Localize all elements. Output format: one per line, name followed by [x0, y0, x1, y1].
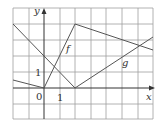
g-label: g	[122, 57, 128, 68]
y-axis-arrow-icon	[42, 8, 47, 14]
function-graph: y x 0 1 1 f g	[0, 0, 158, 126]
f-label: f	[65, 43, 72, 54]
x-axis-arrow-icon	[149, 86, 155, 91]
y-tick-label: 1	[35, 67, 41, 78]
grid	[13, 8, 153, 119]
x-tick-label: 1	[57, 92, 63, 103]
y-axis-label: y	[33, 5, 40, 16]
x-axis-label: x	[146, 91, 152, 102]
origin-label: 0	[36, 91, 42, 102]
